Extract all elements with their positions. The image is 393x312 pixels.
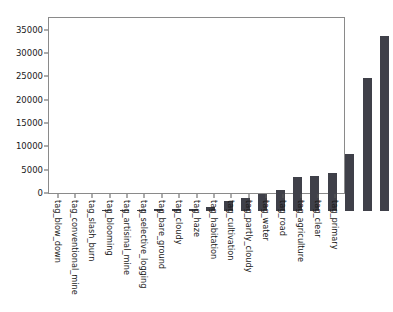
bar-slot [358,36,375,211]
x-axis-slot: tag_agriculture [292,194,309,312]
x-axis-slot: tag_cloudy [171,194,188,312]
x-axis-tick-mark [57,194,58,198]
y-axis-tick-label: 10000 [16,142,43,151]
bar-slot [98,36,115,211]
x-axis-tick-mark [144,194,145,198]
x-axis: tag_blow_downtag_conventional_minetag_sl… [49,194,344,312]
x-axis-slot: tag_artisinal_mine [118,194,135,312]
x-axis-tick-mark [265,194,266,198]
bar-slot [150,36,167,211]
x-axis-tick-mark [92,194,93,198]
y-axis-tick-label: 5000 [21,165,43,174]
bar-slot [202,36,219,211]
y-axis-tick-label: 25000 [16,72,43,81]
x-axis-tick-mark [283,194,284,198]
x-axis-tick-mark [75,194,76,198]
x-axis-tick-label: tag_partly_cloudy [245,200,253,273]
x-axis-tick-label: tag_road [279,200,287,236]
x-axis-slot: tag_blow_down [49,194,66,312]
x-axis-slot: tag_blooming [101,194,118,312]
x-axis-tick-mark [335,194,336,198]
y-axis-tick-label: 20000 [16,95,43,104]
x-axis-tick-mark [213,194,214,198]
x-axis-tick-label: tag_slash_burn [88,200,96,261]
bar-tag_clear [363,78,372,211]
x-axis-slot: tag_conventional_mine [66,194,83,312]
x-axis-tick-mark [300,194,301,198]
bar-slot [306,36,323,211]
bar-tag_primary [380,36,389,211]
bar-slot [324,36,341,211]
x-axis-tick-mark [231,194,232,198]
x-axis-tick-label: tag_haze [192,200,200,237]
x-axis-slot: tag_haze [188,194,205,312]
x-axis-slot: tag_bare_ground [153,194,170,312]
bar-slot [115,36,132,211]
bar-slot [341,36,358,211]
x-axis-tick-label: tag_water [262,200,270,241]
x-axis-tick-mark [109,194,110,198]
x-axis-tick-mark [196,194,197,198]
x-axis-tick-mark [318,194,319,198]
bar-tag_agriculture [345,154,354,211]
x-axis-slot: tag_water [257,194,274,312]
x-axis-tick-label: tag_habitation [210,200,218,259]
x-axis-tick-label: tag_cloudy [175,200,183,245]
bar-slot [376,36,393,211]
x-axis-slot: tag_slash_burn [84,194,101,312]
y-axis-tick-label: 35000 [16,25,43,34]
bar-slot [254,36,271,211]
y-axis-tick-label: 30000 [16,49,43,58]
x-axis-slot: tag_clear [309,194,326,312]
x-axis-tick-label: tag_primary [331,200,339,250]
y-axis: 05000100001500020000250003000035000 [0,17,48,194]
y-axis-tick-label: 0 [38,189,43,198]
x-axis-tick-label: tag_clear [314,200,322,238]
bar-slot [237,36,254,211]
x-axis-tick-label: tag_artisinal_mine [123,200,131,275]
x-axis-tick-label: tag_selective_logging [140,200,148,288]
bar-slot [167,36,184,211]
x-axis-tick-mark [161,194,162,198]
bar-series [98,36,393,211]
y-axis-tick-label: 15000 [16,119,43,128]
x-axis-tick-mark [127,194,128,198]
x-axis-slot: tag_habitation [205,194,222,312]
x-axis-tick-label: tag_blow_down [54,200,62,263]
x-axis-slot: tag_cultivation [223,194,240,312]
bar-slot [185,36,202,211]
x-axis-tick-label: tag_bare_ground [158,200,166,269]
x-axis-tick-label: tag_blooming [106,200,114,256]
plot-area [48,17,345,194]
x-axis-tick-label: tag_conventional_mine [71,200,79,295]
x-axis-slot: tag_road [275,194,292,312]
bar-slot [289,36,306,211]
x-axis-slot: tag_selective_logging [136,194,153,312]
x-axis-slot: tag_partly_cloudy [240,194,257,312]
bar-slot [272,36,289,211]
x-axis-tick-label: tag_agriculture [297,200,305,262]
x-axis-tick-mark [179,194,180,198]
bar-slot [133,36,150,211]
x-axis-tick-label: tag_cultivation [227,200,235,261]
x-axis-tick-mark [248,194,249,198]
bar-slot [220,36,237,211]
x-axis-slot: tag_primary [327,194,344,312]
